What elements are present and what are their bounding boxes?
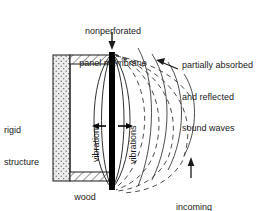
membrane-label-line2: panel membrane (52, 58, 174, 69)
vibrations-label-right: vibrations (128, 125, 138, 164)
rigid-label-line2: structure (4, 157, 52, 168)
rigid-label-line1: rigid (4, 125, 52, 136)
reflected-label-line3: sound waves (182, 123, 270, 134)
incoming-waves-label: incoming sound waves (176, 181, 268, 211)
vibrations-label-left: vibrations (91, 123, 101, 162)
rigid-structure-label: rigid structure (4, 104, 52, 188)
reflected-waves-label: partially absorbed and reflected sound w… (182, 39, 270, 155)
membrane-label-line1: nonperforated (52, 26, 174, 37)
membrane-label: nonperforated panel membrane (52, 5, 174, 89)
incoming-label-line1: incoming (176, 202, 268, 211)
reflected-label-line1: partially absorbed (182, 60, 270, 71)
diagram-canvas: nonperforated panel membrane partially a… (0, 0, 270, 211)
incoming-arrow-up (188, 157, 195, 178)
wood-label: wood (60, 192, 110, 203)
reflected-label-line2: and reflected (182, 92, 270, 103)
